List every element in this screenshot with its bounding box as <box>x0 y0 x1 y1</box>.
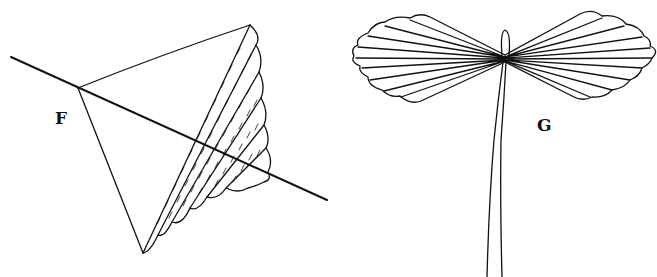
figure-g-label: G <box>537 115 552 135</box>
figure-f-drawing <box>11 25 327 253</box>
illustration <box>0 0 657 277</box>
figure-f-label: F <box>55 108 67 128</box>
figure-g-drawing <box>353 11 656 277</box>
